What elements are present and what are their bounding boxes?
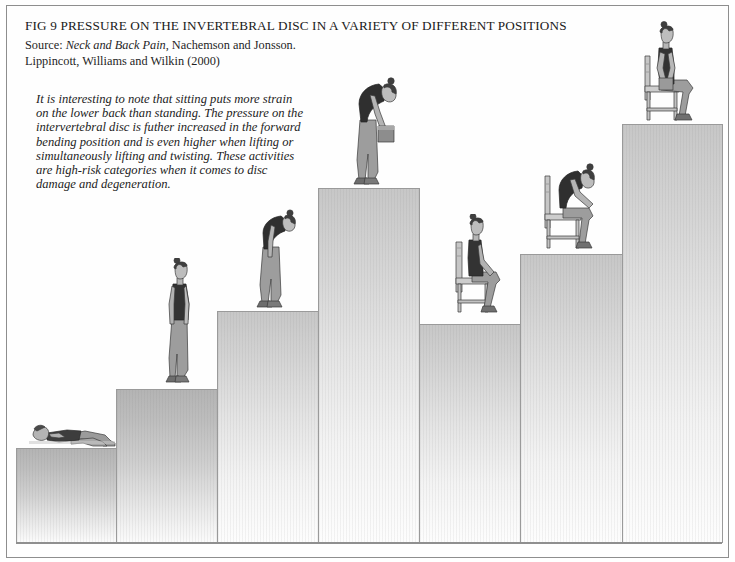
bar-chart (7, 6, 729, 558)
person-sitting-upright-icon (450, 214, 520, 319)
person-standing-icon (163, 258, 199, 390)
bar-standing-bent-forward (217, 311, 319, 543)
figure-header: FIG 9 PRESSURE ON THE INVERTEBRAL DISC I… (25, 18, 685, 69)
source-line-1: Source: Neck and Back Pain, Nachemson an… (25, 38, 685, 53)
chart-baseline (16, 542, 722, 544)
person-lying-icon (19, 419, 119, 449)
bar-sitting-with-weight (622, 124, 723, 543)
bar-standing-bent-forward-weight (318, 188, 420, 543)
bar-sitting-bent-forward (520, 254, 623, 543)
figure-frame: FIG 9 PRESSURE ON THE INVERTEBRAL DISC I… (6, 5, 729, 558)
person-bending-icon (255, 199, 303, 312)
bar-sitting-upright (419, 324, 521, 543)
figure-title: FIG 9 PRESSURE ON THE INVERTEBRAL DISC I… (25, 18, 685, 34)
source-book-title: Neck and Back Pain (66, 38, 166, 52)
source-prefix: Source: (25, 38, 63, 52)
source-publisher: Lippincott, Williams and Wilkin (2000) (25, 54, 685, 69)
caption-paragraph: It is interesting to note that sitting p… (36, 92, 304, 191)
figure-panel: FIG 9 PRESSURE ON THE INVERTEBRAL DISC I… (0, 0, 735, 562)
source-authors: , Nachemson and Jonsson. (166, 38, 296, 52)
bar-standing-upright (116, 389, 218, 543)
bar-lying-supine (16, 448, 117, 543)
person-sitting-bent-forward-icon (537, 146, 615, 256)
person-bending-with-weight-icon (350, 68, 406, 190)
